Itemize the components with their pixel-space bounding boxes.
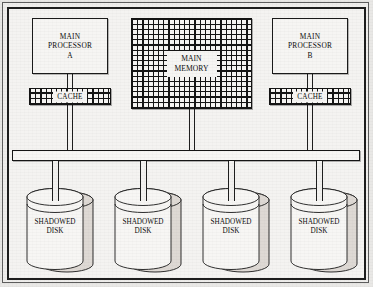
- shadowed-disk-2-label: SHADOWED DISK: [115, 218, 171, 236]
- diagram-root: MAIN PROCESSOR A CACHE MAIN MEMORY MAIN …: [0, 0, 373, 287]
- cache-a-box[interactable]: CACHE: [29, 88, 111, 105]
- connector-cache-a-to-bus: [67, 104, 73, 150]
- shadowed-disk-2[interactable]: SHADOWED DISK: [113, 184, 197, 280]
- shadowed-disk-1-label: SHADOWED DISK: [27, 218, 83, 236]
- connector-processor-b-to-cache: [307, 73, 313, 89]
- shadowed-disk-1[interactable]: SHADOWED DISK: [25, 184, 109, 280]
- cache-a-label: CACHE: [53, 91, 87, 102]
- main-memory-box[interactable]: MAIN MEMORY: [131, 18, 252, 109]
- main-processor-b-box[interactable]: MAIN PROCESSOR B: [272, 18, 348, 74]
- connector-cache-b-to-bus: [307, 104, 313, 150]
- bus-to-disk-stem-2: [140, 161, 147, 201]
- connector-processor-a-to-cache: [67, 73, 73, 89]
- main-memory-label: MAIN MEMORY: [167, 51, 217, 77]
- cache-b-label: CACHE: [293, 91, 327, 102]
- main-processor-a-box[interactable]: MAIN PROCESSOR A: [32, 18, 108, 74]
- bus-to-disk-stem-1: [52, 161, 59, 201]
- bus-to-disk-stem-3: [228, 161, 235, 201]
- main-processor-a-label: MAIN PROCESSOR A: [48, 32, 92, 60]
- diagram-canvas: MAIN PROCESSOR A CACHE MAIN MEMORY MAIN …: [7, 7, 366, 280]
- shadowed-disk-4[interactable]: SHADOWED DISK: [289, 184, 373, 280]
- shadowed-disk-3[interactable]: SHADOWED DISK: [201, 184, 285, 280]
- shadowed-disk-4-label: SHADOWED DISK: [291, 218, 347, 236]
- connector-memory-to-bus: [189, 108, 195, 150]
- system-bus[interactable]: [12, 150, 360, 161]
- main-processor-b-label: MAIN PROCESSOR B: [288, 32, 332, 60]
- shadowed-disk-3-label: SHADOWED DISK: [203, 218, 259, 236]
- bus-to-disk-stem-4: [316, 161, 323, 201]
- cache-b-box[interactable]: CACHE: [269, 88, 351, 105]
